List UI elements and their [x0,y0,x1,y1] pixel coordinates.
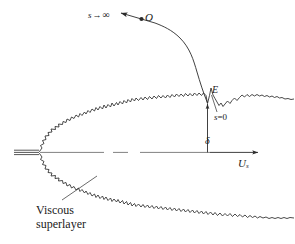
caption-line-1: Viscous [36,203,74,217]
particle-trajectory-curve [121,13,208,103]
trajectory-origin-marker-O [139,17,143,21]
label-point-E: E [212,85,218,95]
s-variable-glyph: s [88,10,92,20]
viscous-superlayer-leader-line [62,176,97,200]
label-s-approaches-infinity: s→∞ [88,10,110,20]
label-free-stream-velocity: Us [238,158,249,170]
figure-canvas: s→∞ O E s=0 δ Us Viscous superlayer [0,0,294,244]
upper-turbulent-interface [40,88,295,152]
caption-line-2: superlayer [36,217,86,231]
nozzle-lip-lines [14,150,39,154]
U-subscript-glyph: s [246,162,249,170]
zero-glyph: 0 [223,112,228,122]
label-s-equals-zero: s=0 [214,113,227,122]
label-delta-thickness: δ [205,136,210,146]
caption-viscous-superlayer: Viscous superlayer [36,203,86,231]
right-arrow-icon: → [92,10,103,20]
infinity-glyph: ∞ [103,9,110,20]
label-point-O: O [145,12,153,23]
U-symbol-glyph: U [238,157,246,169]
